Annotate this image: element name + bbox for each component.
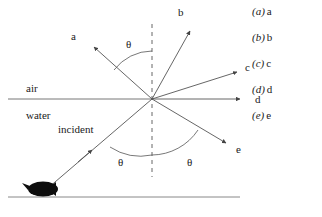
angle-label-lower-right: θ [187,157,192,168]
angle-label-upper: θ [126,39,131,50]
angle-arc-lower-right [152,130,198,155]
ray-label-c: c [245,62,250,73]
option-item-c[interactable]: (c)c [252,58,318,84]
ray-e [152,99,226,143]
option-key-e: (e) [252,109,264,121]
option-item-b[interactable]: (b)b [252,32,318,58]
option-item-a[interactable]: (a)a [252,6,318,32]
fish-icon [22,182,58,197]
incident-ray-arrowhead [78,150,92,162]
ray-a [94,47,152,99]
physics-diagram-figure: air water incident a b c d e θ θ θ (a)a … [0,0,322,217]
incident-ray-label: incident [58,124,93,135]
option-value-e: e [266,109,271,121]
air-label: air [26,83,38,94]
ray-label-a: a [71,31,76,42]
ray-label-b: b [178,7,184,18]
answer-options-list: (a)a (b)b (c)c (d)d (e)e [252,6,318,136]
option-key-a: (a) [252,5,265,17]
option-value-a: a [267,5,272,17]
option-item-d[interactable]: (d)d [252,84,318,110]
angle-arc-upper [114,51,152,70]
angle-label-lower-left: θ [118,157,123,168]
angle-arc-lower-left [110,147,152,156]
option-value-d: d [267,83,273,95]
option-value-b: b [267,31,273,43]
option-item-e[interactable]: (e)e [252,110,318,136]
incident-ray [48,99,152,188]
option-key-d: (d) [252,83,265,95]
ray-label-e: e [236,144,241,155]
option-key-c: (c) [252,57,264,69]
option-key-b: (b) [252,31,265,43]
option-value-c: c [266,57,271,69]
water-label: water [26,110,50,121]
